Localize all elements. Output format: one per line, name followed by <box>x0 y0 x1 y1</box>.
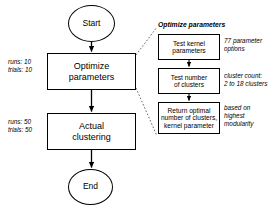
annotation-highest-modularity: based on highest modularity <box>224 104 270 129</box>
annotation-cluster-count-range: cluster count: 2 to 18 clusters <box>224 72 272 88</box>
node-optimize-parameters[interactable]: Optimize parameters <box>47 53 136 90</box>
detail-group-title: Optimize parameters <box>158 21 225 28</box>
node-actual-clustering-label: Actual clustering <box>72 121 111 141</box>
node-test-kernel-parameters-label: Test kernel parameters <box>172 40 205 55</box>
node-test-number-of-clusters-label: Test number of clusters <box>171 74 207 89</box>
annotation-optimize-runs-trials: runs: 10 trials: 10 <box>8 58 46 74</box>
flowchart-canvas: Start Optimize parameters Actual cluster… <box>0 0 273 211</box>
node-start[interactable]: Start <box>68 5 115 42</box>
node-return-optimal-label: Return optimal number of clusters, kerne… <box>161 107 217 129</box>
node-optimize-parameters-label: Optimize parameters <box>69 61 115 81</box>
node-test-number-of-clusters[interactable]: Test number of clusters <box>158 68 220 94</box>
node-start-label: Start <box>83 19 101 29</box>
node-end[interactable]: End <box>68 169 113 205</box>
node-test-kernel-parameters[interactable]: Test kernel parameters <box>158 34 220 60</box>
callout-lines <box>136 27 157 136</box>
node-end-label: End <box>83 182 98 192</box>
node-actual-clustering[interactable]: Actual clustering <box>47 113 136 150</box>
node-return-optimal[interactable]: Return optimal number of clusters, kerne… <box>158 102 220 134</box>
annotation-actual-runs-trials: runs: 50 trials: 50 <box>8 118 46 134</box>
annotation-kernel-parameter-options: 77 parameter options <box>224 37 272 53</box>
